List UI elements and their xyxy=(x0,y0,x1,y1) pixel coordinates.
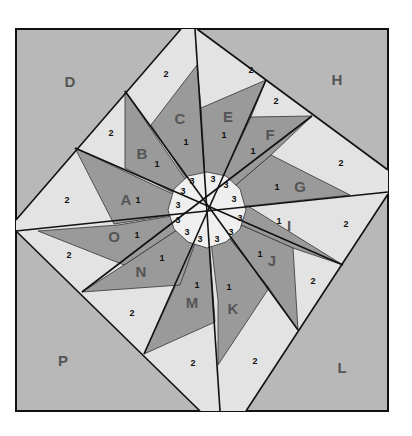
point-label-k: K xyxy=(228,300,239,317)
piece-number: 1 xyxy=(134,230,139,240)
piece-number: 1 xyxy=(274,182,279,192)
point-label-b: B xyxy=(137,145,148,162)
point-label-o: O xyxy=(108,228,120,245)
piece-number: 3 xyxy=(228,227,233,237)
piece-number: 2 xyxy=(273,96,278,106)
piece-number: 1 xyxy=(276,216,281,226)
piece-number: 2 xyxy=(190,358,195,368)
corner-label-p: P xyxy=(58,352,68,369)
piece-number: 1 xyxy=(135,195,140,205)
piece-number: 2 xyxy=(108,128,113,138)
point-label-n: N xyxy=(136,263,147,280)
piece-number: 1 xyxy=(250,146,255,156)
piece-number: 2 xyxy=(338,158,343,168)
point-label-i: I xyxy=(287,217,291,234)
piece-number: 3 xyxy=(231,194,236,204)
point-label-m: M xyxy=(186,294,199,311)
point-label-g: G xyxy=(294,178,306,195)
piece-number: 3 xyxy=(180,186,185,196)
piece-number: 3 xyxy=(237,213,242,223)
point-label-c: C xyxy=(175,110,186,127)
piece-number: 2 xyxy=(343,219,348,229)
piece-number: 2 xyxy=(64,195,69,205)
piece-number: 2 xyxy=(163,69,168,79)
piece-number: 3 xyxy=(223,180,228,190)
piece-number: 1 xyxy=(257,249,262,259)
piece-number: 3 xyxy=(175,215,180,225)
piece-number: 2 xyxy=(129,308,134,318)
piece-number: 2 xyxy=(310,276,315,286)
piece-number: 1 xyxy=(154,159,159,169)
piece-number: 3 xyxy=(197,234,202,244)
piece-number: 1 xyxy=(226,282,231,292)
piece-number: 2 xyxy=(66,250,71,260)
point-label-f: F xyxy=(265,126,274,143)
piece-number: 1 xyxy=(194,280,199,290)
piece-number: 2 xyxy=(248,65,253,75)
piece-number: 3 xyxy=(175,200,180,210)
piece-number: 1 xyxy=(183,137,188,147)
point-label-e: E xyxy=(223,108,233,125)
point-label-j: J xyxy=(268,252,276,269)
piece-number: 1 xyxy=(159,253,164,263)
corner-label-l: L xyxy=(337,359,346,376)
piece-number: 3 xyxy=(189,176,194,186)
corner-label-d: D xyxy=(65,73,76,90)
corner-label-h: H xyxy=(332,71,343,88)
piece-number: 3 xyxy=(210,174,215,184)
piece-number: 3 xyxy=(214,234,219,244)
point-label-a: A xyxy=(121,191,132,208)
piece-number: 1 xyxy=(221,130,226,140)
piece-number: 3 xyxy=(184,227,189,237)
quilt-block-diagram: DHPL A1B1C1E1F1G1I1J1K1M1N1O1 2222222222… xyxy=(0,0,412,436)
piece-number: 2 xyxy=(252,356,257,366)
